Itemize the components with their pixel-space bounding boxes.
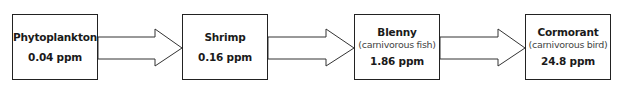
node-name: Cormorant: [537, 26, 598, 39]
arrow-3-icon: [440, 29, 525, 66]
node-shrimp: Shrimp 0.16 ppm: [182, 14, 268, 80]
node-value: 0.04 ppm: [28, 51, 82, 64]
arrow-2-icon: [268, 29, 354, 66]
node-description: (carnivorous fish): [358, 39, 435, 51]
node-phytoplankton: Phytoplankton 0.04 ppm: [12, 14, 98, 80]
node-cormorant: Cormorant (carnivorous bird) 24.8 ppm: [525, 14, 611, 80]
node-value: 0.16 ppm: [198, 51, 252, 64]
node-name: Shrimp: [204, 31, 245, 44]
node-value: 1.86 ppm: [370, 55, 424, 68]
node-value: 24.8 ppm: [541, 55, 595, 68]
node-name: Blenny: [377, 26, 416, 39]
node-name: Phytoplankton: [13, 31, 97, 44]
node-blenny: Blenny (carnivorous fish) 1.86 ppm: [354, 14, 440, 80]
node-description: (carnivorous bird): [529, 39, 608, 51]
arrow-1-icon: [98, 29, 182, 66]
